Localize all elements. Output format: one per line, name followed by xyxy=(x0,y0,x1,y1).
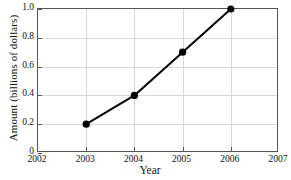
x-axis-title: Year xyxy=(37,164,263,177)
x-tick-label: 2007 xyxy=(258,154,291,164)
y-axis-title: Amount (billions of dollars) xyxy=(7,3,19,153)
line-chart-figure: 00.20.40.60.81.0 Amount (billions of dol… xyxy=(0,0,291,180)
data-point-marker xyxy=(131,92,138,99)
x-tick-label: 2004 xyxy=(113,154,153,164)
data-point-marker xyxy=(227,5,234,12)
x-tick-label: 2006 xyxy=(210,154,250,164)
series-line xyxy=(86,9,231,124)
x-tick-label: 2003 xyxy=(65,154,105,164)
data-series-layer xyxy=(38,9,277,151)
data-point-marker xyxy=(179,49,186,56)
data-point-marker xyxy=(83,121,90,128)
x-tick-label: 2005 xyxy=(162,154,202,164)
plot-area xyxy=(37,8,278,152)
series-svg xyxy=(38,9,279,153)
x-tick-label: 2002 xyxy=(17,154,57,164)
